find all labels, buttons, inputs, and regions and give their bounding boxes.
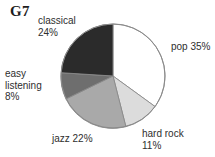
slice-label-easy-listening: easy listening 8% bbox=[5, 68, 42, 103]
slice-label-classical: classical 24% bbox=[38, 15, 76, 38]
pie-chart-figure: G7 classical 24% pop 35% hard rock 11% j… bbox=[0, 0, 215, 157]
slice-label-jazz: jazz 22% bbox=[52, 133, 93, 145]
slice-label-pop: pop 35% bbox=[171, 41, 210, 53]
slice-label-hard-rock: hard rock 11% bbox=[142, 128, 184, 151]
